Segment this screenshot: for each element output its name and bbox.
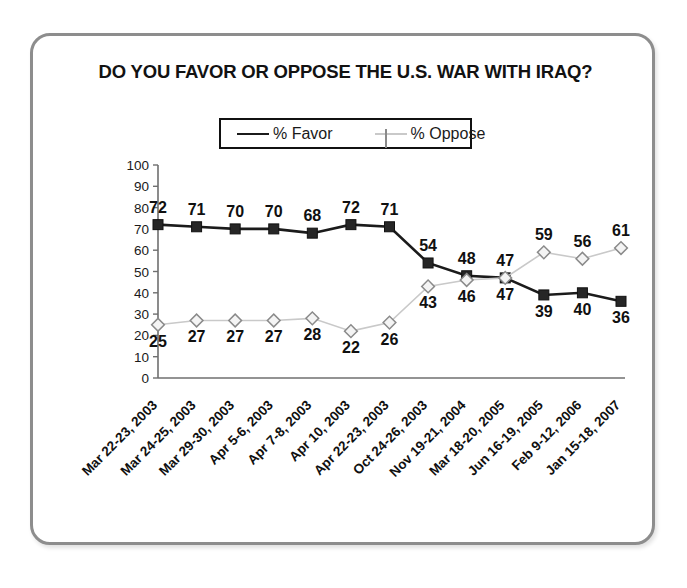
data-label: 61 [612, 222, 630, 239]
data-point-favor [269, 224, 279, 234]
y-axis-tick-label: 30 [134, 307, 149, 322]
y-axis-tick-label: 10 [134, 350, 149, 365]
data-point-favor [423, 258, 433, 268]
data-point-oppose [576, 252, 589, 265]
data-point-favor [307, 228, 317, 238]
data-label: 48 [458, 250, 476, 267]
data-label: 71 [188, 201, 206, 218]
data-label: 71 [381, 201, 399, 218]
plot-area: 1009080706050403020100727170706872715448… [33, 36, 658, 548]
data-label: 47 [496, 286, 514, 303]
data-label: 56 [574, 233, 592, 250]
data-point-oppose [190, 314, 203, 327]
data-label: 54 [419, 237, 437, 254]
y-axis-tick-label: 100 [126, 158, 149, 173]
data-point-favor [385, 222, 395, 232]
data-point-favor [153, 220, 163, 230]
data-point-oppose [537, 246, 550, 259]
data-point-oppose [345, 325, 358, 338]
y-axis-tick-label: 80 [134, 201, 149, 216]
data-label: 40 [574, 301, 592, 318]
data-label: 22 [342, 339, 360, 356]
data-point-oppose [229, 314, 242, 327]
y-axis-tick-label: 70 [134, 222, 149, 237]
data-label: 70 [265, 203, 283, 220]
data-point-favor [192, 222, 202, 232]
data-label: 68 [303, 207, 321, 224]
data-label: 59 [535, 226, 553, 243]
data-label: 47 [496, 252, 514, 269]
data-point-favor [577, 288, 587, 298]
data-label: 27 [226, 328, 244, 345]
y-axis-tick-label: 0 [141, 371, 149, 386]
data-label: 70 [226, 203, 244, 220]
data-label: 27 [265, 328, 283, 345]
y-axis-tick-label: 50 [134, 265, 149, 280]
data-label: 43 [419, 294, 437, 311]
data-label: 46 [458, 288, 476, 305]
y-axis-tick-label: 90 [134, 179, 149, 194]
data-point-oppose [306, 312, 319, 325]
data-label: 72 [342, 199, 360, 216]
data-label: 36 [612, 309, 630, 326]
data-point-oppose [615, 242, 628, 255]
y-axis-tick-label: 40 [134, 286, 149, 301]
chart-svg: 1009080706050403020100727170706872715448… [33, 36, 658, 548]
chart-card: DO YOU FAVOR OR OPPOSE THE U.S. WAR WITH… [30, 33, 655, 545]
y-axis-tick-label: 60 [134, 243, 149, 258]
data-label: 28 [303, 326, 321, 343]
data-point-oppose [267, 314, 280, 327]
data-label: 26 [381, 331, 399, 348]
data-point-oppose [152, 318, 165, 331]
data-label: 72 [149, 199, 167, 216]
data-point-favor [230, 224, 240, 234]
y-axis-tick-label: 20 [134, 328, 149, 343]
data-label: 27 [188, 328, 206, 345]
data-point-favor [346, 220, 356, 230]
data-label: 39 [535, 303, 553, 320]
data-point-favor [539, 290, 549, 300]
data-label: 25 [149, 333, 167, 350]
data-point-favor [616, 296, 626, 306]
